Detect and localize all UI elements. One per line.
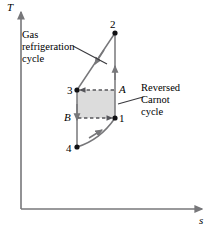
carnot-cycle-leader [118,97,143,104]
point-marker-3 [74,87,79,92]
gas-cycle-leader [73,46,107,64]
point-marker-4 [74,144,79,149]
point-marker-1 [112,115,117,120]
gas-refrigeration-cycle-label: Gas refrigeration cycle [22,29,74,64]
point-marker-2 [112,30,117,35]
x-axis-label: s [199,214,203,226]
state-label-b: B [64,111,71,123]
reversed-carnot-cycle-label: Reversed Carnot cycle [141,82,180,117]
state-label-2: 2 [110,18,116,30]
state-label-a: A [119,83,126,95]
y-axis-label: T [7,1,13,13]
carnot-shaded-region [77,90,115,118]
ts-diagram-figure: T s Gas refrigeration cycle Reversed Car… [0,0,211,230]
state-label-4: 4 [66,142,72,154]
process-4-1 [77,118,115,147]
state-label-3: 3 [67,84,73,96]
state-label-1: 1 [119,112,125,124]
